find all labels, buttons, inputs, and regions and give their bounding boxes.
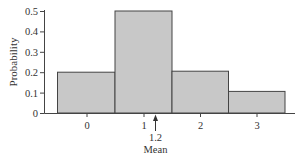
mean-annotation: 1.2 Mean: [144, 115, 169, 156]
bar-0: [58, 72, 116, 113]
y-axis-title: Probability: [7, 37, 19, 86]
arrowhead-icon: [153, 115, 158, 122]
bar-2: [172, 71, 229, 113]
mean-value-label: 1.2: [149, 132, 162, 143]
x-tick-1: 1: [141, 120, 146, 131]
x-tick-0: 0: [84, 120, 89, 131]
histogram-chart: Probability 0 0.1 0.2 0.3 0.4 0.5 0 1: [0, 0, 299, 166]
x-tick-labels: 0 1 2 3: [84, 120, 259, 131]
bar-3: [229, 91, 286, 113]
bars: [58, 11, 286, 113]
bar-1: [115, 11, 172, 113]
y-tick-0.2: 0.2: [25, 67, 38, 78]
x-tick-3: 3: [254, 120, 259, 131]
y-tick-0.4: 0.4: [25, 26, 39, 37]
y-tick-0.1: 0.1: [25, 88, 38, 99]
x-tick-2: 2: [198, 120, 203, 131]
y-tick-0: 0: [33, 108, 38, 119]
y-tick-0.3: 0.3: [25, 47, 38, 58]
y-tick-labels: 0 0.1 0.2 0.3 0.4 0.5: [25, 6, 39, 119]
mean-text-label: Mean: [144, 144, 169, 155]
y-tick-0.5: 0.5: [25, 6, 38, 17]
